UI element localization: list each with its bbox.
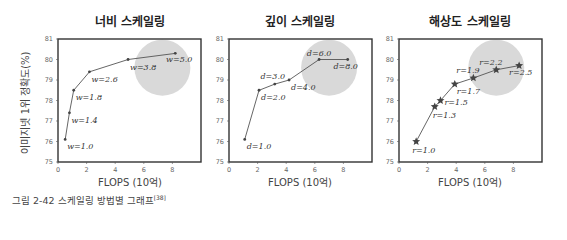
x-tick-label: 4 <box>454 166 458 174</box>
caption-reference: [38] <box>154 194 166 201</box>
x-tick-label: 0 <box>56 166 60 174</box>
point-label: d=3.0 <box>260 72 285 81</box>
point-marker <box>258 89 261 92</box>
point-label: w=5.0 <box>166 55 192 64</box>
y-tick-label: 80 <box>216 56 224 64</box>
y-tick-label: 80 <box>386 56 394 64</box>
y-tick-label: 75 <box>216 158 224 166</box>
y-tick-label: 79 <box>45 76 53 84</box>
point-label: r=1.9 <box>456 66 479 75</box>
x-tick-label: 8 <box>341 166 345 174</box>
point-label: r=2.5 <box>509 68 532 77</box>
y-tick-label: 76 <box>386 138 394 146</box>
point-label: r=1.0 <box>412 146 435 155</box>
x-tick-label: 8 <box>511 166 515 174</box>
y-tick-label: 76 <box>45 138 53 146</box>
y-tick-label: 80 <box>45 56 53 64</box>
y-tick-label: 79 <box>216 76 224 84</box>
point-label: d=8.0 <box>333 62 358 71</box>
point-label: w=1.0 <box>67 142 93 151</box>
x-tick-label: 4 <box>113 166 117 174</box>
x-tick-label: 0 <box>227 166 231 174</box>
y-tick-label: 78 <box>45 97 53 105</box>
point-marker <box>72 89 75 92</box>
y-tick-label: 78 <box>386 97 394 105</box>
y-tick-label: 78 <box>216 97 224 105</box>
x-tick-label: 8 <box>170 166 174 174</box>
point-label: r=1.7 <box>457 87 481 96</box>
point-label: r=2.2 <box>479 58 502 67</box>
y-tick-label: 77 <box>45 117 53 125</box>
y-tick-label: 77 <box>386 117 394 125</box>
x-tick-label: 6 <box>142 166 146 174</box>
figure-caption: 그림 2-42 스케일링 방법별 그래프[38] <box>12 193 166 207</box>
x-tick-label: 4 <box>284 166 288 174</box>
point-marker <box>64 138 67 141</box>
star-marker <box>412 137 420 145</box>
point-marker <box>243 138 246 141</box>
point-marker <box>174 52 177 55</box>
point-label: w=3.8 <box>130 63 156 72</box>
point-label: d=2.0 <box>261 93 286 102</box>
y-tick-label: 79 <box>386 76 394 84</box>
point-label: r=1.3 <box>433 111 456 120</box>
x-tick-label: 6 <box>483 166 487 174</box>
x-tick-label: 2 <box>85 166 89 174</box>
y-tick-label: 81 <box>386 35 394 43</box>
y-tick-label: 75 <box>386 158 394 166</box>
y-tick-label: 81 <box>216 35 224 43</box>
x-tick-label: 6 <box>313 166 317 174</box>
point-marker <box>127 58 130 61</box>
y-tick-label: 77 <box>216 117 224 125</box>
y-tick-label: 81 <box>45 35 53 43</box>
y-tick-label: 75 <box>45 158 53 166</box>
point-marker <box>318 58 321 61</box>
point-label: w=1.8 <box>76 93 102 102</box>
point-marker <box>288 79 291 82</box>
x-tick-label: 2 <box>256 166 260 174</box>
x-axis-label-resolution: FLOPS (10억) <box>390 174 550 189</box>
point-marker <box>346 58 349 61</box>
point-marker <box>68 111 71 114</box>
caption-text: 그림 2-42 스케일링 방법별 그래프 <box>12 195 154 206</box>
point-label: d=6.0 <box>307 49 332 58</box>
point-label: w=2.6 <box>91 75 117 84</box>
point-marker <box>273 83 276 86</box>
x-tick-label: 0 <box>397 166 401 174</box>
x-axis-label-width: FLOPS (10억) <box>50 174 210 189</box>
x-axis-label-depth: FLOPS (10억) <box>220 174 380 189</box>
point-label: d=4.0 <box>291 83 316 92</box>
point-label: d=1.0 <box>247 142 272 151</box>
point-label: w=1.4 <box>71 116 97 125</box>
x-tick-label: 2 <box>426 166 430 174</box>
point-label: r=1.5 <box>444 98 467 107</box>
y-tick-label: 76 <box>216 138 224 146</box>
point-marker <box>88 70 91 73</box>
